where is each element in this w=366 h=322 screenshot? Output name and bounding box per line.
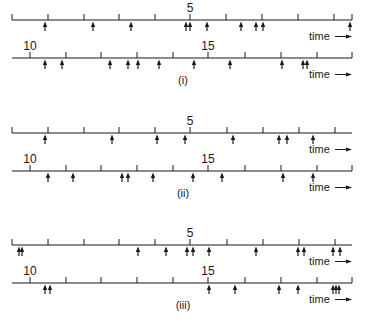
time-direction-label: time [309,293,352,305]
timeline-row: 5time [12,226,352,267]
event-arrow-icon [331,247,335,257]
panel-3: 5time1015time(iii) [12,226,352,311]
panel-1: 5time1015time(i) [12,1,352,86]
event-arrow-icon [20,247,24,257]
point-process-diagram: 5time1015time(i)5time1015time(ii)5time10… [0,0,366,322]
event-arrow-icon [285,135,289,145]
event-arrow-icon [126,60,130,70]
time-label: time [309,68,330,80]
event-arrow-icon [207,247,211,257]
event-arrow-icon [43,135,47,145]
event-arrow-icon [277,285,281,295]
time-label: time [309,143,330,155]
time-direction-label: time [309,143,352,155]
event-arrow-icon [43,60,47,70]
event-arrow-icon [254,22,258,32]
event-arrow-icon [302,247,306,257]
event-arrow-icon [233,285,237,295]
time-direction-label: time [309,68,352,80]
event-arrow-icon [155,135,159,145]
event-arrow-icon [338,247,342,257]
event-arrow-icon [157,60,161,70]
event-arrow-icon [192,60,196,70]
time-direction-label: time [309,181,352,193]
event-arrow-icon [261,22,265,32]
timeline-row: 5time [12,1,352,42]
event-arrow-icon [281,173,285,183]
event-arrow-icon [348,22,352,32]
event-arrow-icon [231,135,235,145]
tick-label: 5 [187,1,194,15]
tick-label: 10 [23,39,37,53]
event-arrow-icon [188,22,192,32]
event-arrow-icon [60,60,64,70]
event-arrow-icon [239,22,243,32]
event-arrow-icon [46,173,50,183]
tick-label: 15 [201,264,215,278]
event-arrow-icon [185,247,189,257]
tick-label: 10 [23,264,37,278]
event-arrow-icon [337,285,341,295]
panel-label: (ii) [177,187,189,199]
event-arrow-icon [184,22,188,32]
event-arrow-icon [136,247,140,257]
event-arrow-icon [296,247,300,257]
time-label: time [309,30,330,42]
tick-label: 5 [187,226,194,240]
timeline-row: 5time [12,114,352,155]
tick-label: 15 [201,152,215,166]
time-label: time [309,181,330,193]
time-label: time [309,293,330,305]
panel-label: (iii) [176,299,191,311]
event-arrow-icon [277,135,281,145]
event-timelines-figure: 5time1015time(i)5time1015time(ii)5time10… [0,0,366,322]
time-label: time [309,255,330,267]
tick-label: 15 [201,39,215,53]
event-arrow-icon [91,22,95,32]
event-arrow-icon [151,173,155,183]
event-arrow-icon [164,247,168,257]
event-arrow-icon [254,247,258,257]
event-arrow-icon [207,285,211,295]
event-arrow-icon [48,285,52,295]
event-arrow-icon [120,173,124,183]
event-arrow-icon [43,22,47,32]
event-arrow-icon [110,135,114,145]
event-arrow-icon [296,285,300,295]
event-arrow-icon [280,60,284,70]
event-arrow-icon [220,173,224,183]
event-arrow-icon [191,173,195,183]
panel-label: (i) [178,74,188,86]
event-arrow-icon [301,60,305,70]
event-arrow-icon [43,285,47,295]
panel-2: 5time1015time(ii) [12,114,352,199]
event-arrow-icon [71,173,75,183]
event-arrow-icon [126,173,130,183]
time-direction-label: time [309,255,352,267]
time-direction-label: time [309,30,352,42]
event-arrow-icon [136,60,140,70]
event-arrow-icon [228,60,232,70]
event-arrow-icon [205,22,209,32]
event-arrow-icon [108,60,112,70]
event-arrow-icon [191,247,195,257]
event-arrow-icon [183,135,187,145]
tick-label: 10 [23,152,37,166]
event-arrow-icon [129,22,133,32]
tick-label: 5 [187,114,194,128]
